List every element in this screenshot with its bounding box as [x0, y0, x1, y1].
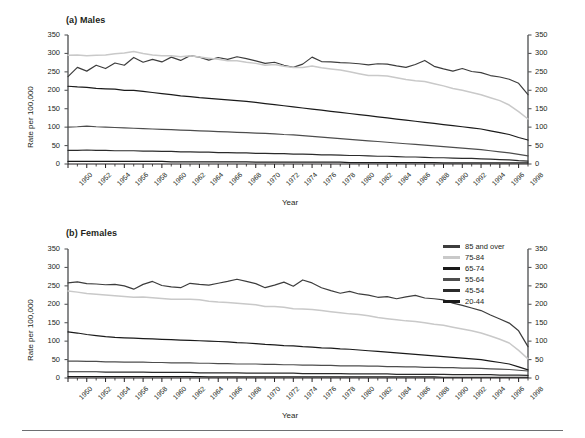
legend-item-label: 75-84	[465, 252, 484, 263]
y-tick-label-right: 50	[535, 355, 563, 364]
legend-swatch-icon	[443, 300, 460, 303]
y-tick-label-right: 0	[535, 159, 563, 168]
y-tick-label-right: 250	[535, 67, 563, 76]
legend-item-label: 85 and over	[465, 241, 505, 252]
y-tick-label-right: 100	[535, 122, 563, 131]
y-tick-label-left: 50	[32, 355, 60, 364]
legend-swatch-icon	[443, 267, 460, 270]
y-tick-label-right: 300	[535, 262, 563, 271]
y-tick-label-left: 150	[32, 104, 60, 113]
legend: 85 and over75-8465-7455-6445-5420-44	[443, 241, 535, 307]
y-tick-label-left: 300	[32, 262, 60, 271]
y-tick-label-left: 250	[32, 281, 60, 290]
y-tick-label-left: 50	[32, 141, 60, 150]
y-tick-label-right: 350	[535, 30, 563, 39]
legend-item-label: 65-74	[465, 263, 484, 274]
y-tick-label-left: 0	[32, 159, 60, 168]
legend-item: 20-44	[443, 296, 535, 307]
y-tick-label-left: 250	[32, 67, 60, 76]
legend-item: 65-74	[443, 263, 535, 274]
y-tick-label-left: 350	[32, 244, 60, 253]
y-tick-label-right: 150	[535, 318, 563, 327]
y-tick-label-left: 350	[32, 30, 60, 39]
legend-item-label: 20-44	[465, 296, 484, 307]
y-tick-label-right: 250	[535, 281, 563, 290]
legend-item-label: 45-54	[465, 285, 484, 296]
y-tick-label-left: 200	[32, 299, 60, 308]
legend-item: 85 and over	[443, 241, 535, 252]
legend-item: 55-64	[443, 274, 535, 285]
y-tick-label-right: 100	[535, 336, 563, 345]
y-tick-label-right: 150	[535, 104, 563, 113]
chart-panel-males: (a) Males Rate per 100,000 Year 00505010…	[0, 0, 585, 215]
figure-container: (a) Males Rate per 100,000 Year 00505010…	[0, 0, 585, 438]
y-tick-label-right: 350	[535, 244, 563, 253]
y-tick-label-right: 0	[535, 373, 563, 382]
y-tick-label-left: 0	[32, 373, 60, 382]
y-tick-label-left: 200	[32, 85, 60, 94]
legend-item: 75-84	[443, 252, 535, 263]
legend-swatch-icon	[443, 289, 460, 292]
y-tick-label-left: 100	[32, 122, 60, 131]
legend-swatch-icon	[443, 256, 460, 259]
y-tick-label-left: 100	[32, 336, 60, 345]
y-tick-label-left: 300	[32, 48, 60, 57]
y-tick-label-left: 150	[32, 318, 60, 327]
y-tick-label-right: 200	[535, 299, 563, 308]
legend-item-label: 55-64	[465, 274, 484, 285]
y-tick-label-right: 50	[535, 141, 563, 150]
footer-divider	[22, 430, 563, 431]
y-tick-label-right: 300	[535, 48, 563, 57]
legend-swatch-icon	[443, 245, 460, 248]
y-tick-label-right: 200	[535, 85, 563, 94]
legend-item: 45-54	[443, 285, 535, 296]
legend-swatch-icon	[443, 278, 460, 281]
